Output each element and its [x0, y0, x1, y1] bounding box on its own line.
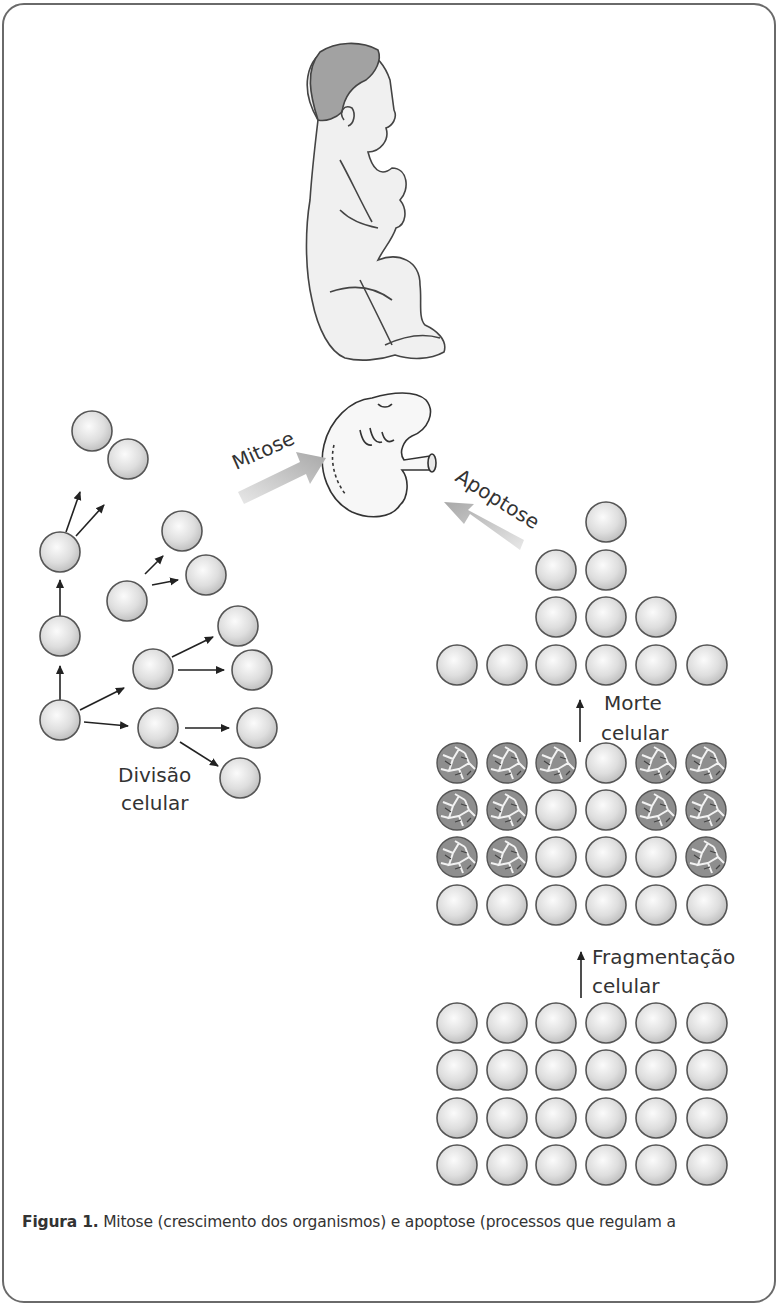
fragmentation-label-1: Fragmentação	[592, 945, 735, 969]
intact-cells-grid	[437, 1003, 727, 1185]
baby-illustration	[306, 43, 444, 360]
figure-caption: Figura 1. Mitose (crescimento dos organi…	[22, 1213, 782, 1231]
caption-text: Mitose (crescimento dos organismos) e ap…	[98, 1213, 675, 1231]
cell-death-label-1: Morte	[604, 691, 662, 715]
remaining-cells-pyramid	[437, 502, 727, 685]
fragmented-cells-grid	[437, 743, 727, 925]
fragmentation-label-2: celular	[592, 974, 660, 998]
cell-division-label-1: Divisão	[118, 763, 191, 787]
apoptosis-label: Apoptose	[451, 464, 544, 534]
embryo-illustration	[322, 393, 436, 517]
cell-death-label-2: celular	[601, 721, 669, 745]
caption-label: Figura 1.	[22, 1213, 98, 1231]
mitosis-label: Mitose	[228, 426, 298, 475]
cell-division-label-2: celular	[121, 791, 189, 815]
